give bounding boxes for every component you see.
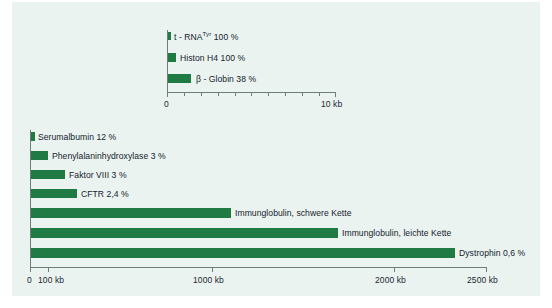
bar-label-serumalbumin: Serumalbumin 12 %	[38, 133, 116, 142]
bottom-chart-tick	[212, 267, 213, 272]
bottom-chart-tick-label-1000kb: 1000 kb	[193, 275, 224, 285]
bar-serumalbumin	[31, 132, 35, 141]
bottom-chart-tick-label-2500kb: 2500 kb	[467, 275, 498, 285]
bottom-chart-x-axis	[30, 267, 486, 268]
bar-label-phenylalaninhydroxylase: Phenylalaninhydroxylase 3 %	[52, 152, 166, 161]
top-chart-tick	[319, 92, 320, 96]
bar-phenylalaninhydroxylase	[31, 151, 48, 160]
bar-label-beta-globin: β - Globin 38 %	[196, 75, 256, 84]
bar-immunglobulin-leichte-kette	[31, 228, 338, 238]
bar-immunglobulin-schwere-kette	[31, 208, 231, 218]
top-chart-tick	[268, 92, 269, 96]
bar-label-superscript: Tyr	[203, 30, 212, 37]
bar-label-suffix: 100 %	[211, 32, 238, 42]
top-chart-tick	[184, 92, 185, 96]
top-chart-tick	[335, 92, 336, 97]
bar-t-rna-tyr	[168, 32, 171, 40]
bar-faktor-viii	[31, 170, 65, 179]
figure-root: 0 10 kb t - RNATyr 100 % Histon H4 100 %…	[0, 0, 552, 308]
bar-label-cftr: CFTR 2,4 %	[81, 190, 129, 199]
top-chart-tick	[285, 92, 286, 96]
bar-dystrophin	[31, 248, 455, 258]
chart-large-genes: 0 100 kb 1000 kb 2000 kb 2500 kb Serumal…	[0, 118, 552, 298]
bottom-chart-tick	[30, 267, 31, 272]
bottom-chart-tick	[48, 267, 49, 272]
bar-cftr	[31, 189, 77, 198]
top-chart-tick	[235, 92, 236, 96]
bar-label-immunglobulin-schwere-kette: Immunglobulin, schwere Kette	[235, 209, 352, 218]
chart-small-genes: 0 10 kb t - RNATyr 100 % Histon H4 100 %…	[0, 0, 552, 118]
bar-label-text: t - RNA	[174, 32, 203, 42]
top-chart-tick-label-end: 10 kb	[321, 99, 342, 109]
top-chart-tick	[201, 92, 202, 96]
bar-label-t-rna-tyr: t - RNATyr 100 %	[174, 33, 238, 42]
bar-beta-globin	[168, 74, 191, 83]
top-chart-tick-label-0: 0	[164, 99, 169, 109]
bar-label-histon-h4: Histon H4 100 %	[180, 54, 245, 63]
bottom-chart-tick-label-0: 0	[27, 275, 32, 285]
bar-label-dystrophin: Dystrophin 0,6 %	[459, 249, 525, 258]
bar-label-immunglobulin-leichte-kette: Immunglobulin, leichte Kette	[342, 229, 451, 238]
bottom-chart-tick-label-2000kb: 2000 kb	[375, 275, 406, 285]
bottom-chart-tick	[486, 267, 487, 272]
top-chart-tick	[251, 92, 252, 96]
bar-histon-h4	[168, 53, 176, 62]
top-chart-tick	[218, 92, 219, 96]
bottom-chart-tick	[394, 267, 395, 272]
top-chart-tick	[302, 92, 303, 96]
top-chart-tick	[167, 92, 168, 97]
bottom-chart-tick-label-100kb: 100 kb	[38, 275, 64, 285]
bar-label-faktor-viii: Faktor VIII 3 %	[69, 171, 127, 180]
